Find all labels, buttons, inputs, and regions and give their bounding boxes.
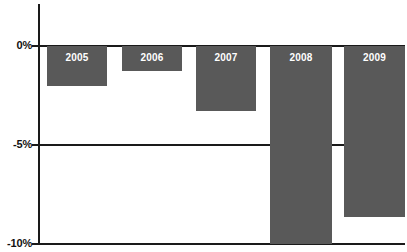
y-axis-tick-zero bbox=[32, 45, 39, 47]
gridline-minus-ten-percent bbox=[38, 243, 405, 245]
bar-2006: 2006 bbox=[122, 46, 182, 71]
bar-label-2007: 2007 bbox=[196, 53, 256, 63]
bar-2007: 2007 bbox=[196, 46, 256, 111]
y-axis-tick-minus-five bbox=[32, 144, 39, 146]
bar-label-2008: 2008 bbox=[270, 53, 332, 63]
bar-2009: 2009 bbox=[344, 46, 405, 217]
y-axis-tick-minus-ten bbox=[32, 243, 39, 245]
bar-label-2006: 2006 bbox=[122, 53, 182, 63]
bar-label-2005: 2005 bbox=[47, 53, 107, 63]
y-axis-label-minus-five: -5% bbox=[0, 139, 32, 150]
y-axis-line bbox=[38, 4, 40, 244]
bar-chart: 0% -5% -10% 2005 2006 2007 2008 2009 bbox=[0, 0, 407, 252]
bar-label-2009: 2009 bbox=[344, 53, 405, 63]
bar-2008: 2008 bbox=[270, 46, 332, 244]
bar-2005: 2005 bbox=[47, 46, 107, 86]
y-axis-label-zero: 0% bbox=[0, 40, 32, 51]
y-axis-label-minus-ten: -10% bbox=[0, 238, 32, 249]
